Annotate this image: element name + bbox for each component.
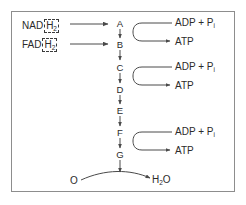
adp-plus-3: +	[198, 126, 204, 137]
adp-plus-2: +	[198, 61, 204, 72]
adp-label-1: ADP + Pi	[175, 18, 215, 28]
chain-letter-g: G	[113, 150, 127, 160]
chain-letter-c: C	[113, 63, 127, 73]
atp-label-2: ATP	[175, 81, 194, 91]
adp-label-2: ADP + Pi	[175, 62, 215, 72]
phosphate-subscript-3: i	[213, 131, 214, 138]
adp-text-1: ADP	[175, 17, 195, 28]
donor-fad-hydrogen-box: H2	[42, 38, 57, 52]
chain-letter-d: D	[113, 85, 127, 95]
donor-fad-label: FAD	[22, 40, 41, 50]
chain-letter-f: F	[113, 128, 127, 138]
donor-nad: NADH2	[22, 19, 59, 33]
donor-fad-hydrogen-subscript: 2	[52, 44, 56, 51]
atp-label-3: ATP	[175, 146, 194, 156]
donor-nad-hydrogen-box: H2	[44, 19, 59, 33]
adp-text-2: ADP	[175, 61, 195, 72]
chain-letter-a: A	[113, 19, 127, 29]
adp-text-3: ADP	[175, 126, 195, 137]
adp-plus-1: +	[198, 17, 204, 28]
phosphate-subscript-2: i	[213, 66, 214, 73]
electron-transport-chain-figure: NADH2 FADH2 A B C D E F G ADP + Pi ATP A…	[0, 0, 246, 205]
adp-label-3: ADP + Pi	[175, 127, 215, 137]
donor-fad: FADH2	[22, 38, 57, 52]
chain-letter-e: E	[113, 106, 127, 116]
oxygen-label: O	[70, 176, 78, 186]
donor-nad-hydrogen-subscript: 2	[53, 25, 57, 32]
chain-letter-b: B	[113, 40, 127, 50]
phosphate-subscript-1: i	[213, 22, 214, 29]
water-label: H2O	[152, 175, 171, 185]
donor-fad-hydrogen-symbol: H	[44, 39, 51, 50]
atp-label-1: ATP	[175, 37, 194, 47]
donor-nad-label: NAD	[22, 21, 43, 31]
water-o: O	[163, 174, 171, 185]
water-subscript: 2	[159, 179, 163, 186]
